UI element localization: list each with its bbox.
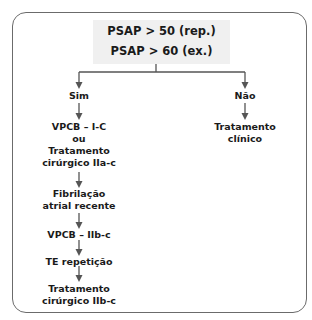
step-line: cirúrgico IIb-c — [19, 295, 139, 307]
step-line: TE repetição — [19, 256, 139, 268]
step-line: ou — [19, 133, 139, 145]
step-fibrilacao: Fibrilação atrial recente — [19, 188, 139, 212]
step-line: VPCB – I-C — [19, 121, 139, 133]
step-line: Tratamento — [19, 145, 139, 157]
step-line: Fibrilação — [19, 188, 139, 200]
branch-yes-label: Sim — [49, 90, 109, 102]
branch-no-label: Não — [215, 90, 275, 102]
step-line: clínico — [195, 133, 295, 145]
step-line: cirúrgico IIa-c — [19, 157, 139, 169]
step-line: Tratamento — [19, 283, 139, 295]
step-tratamento-cirurgico-iib-c: Tratamento cirúrgico IIb-c — [19, 283, 139, 307]
step-line: atrial recente — [19, 200, 139, 212]
step-line: VPCB – IIb-c — [19, 229, 139, 241]
step-te-repeticao: TE repetição — [19, 256, 139, 268]
step-vpcb-i-c: VPCB – I-C ou Tratamento cirúrgico IIa-c — [19, 121, 139, 169]
step-vpcb-iib-c: VPCB – IIb-c — [19, 229, 139, 241]
step-tratamento-clinico: Tratamento clínico — [195, 121, 295, 145]
step-line: Tratamento — [195, 121, 295, 133]
